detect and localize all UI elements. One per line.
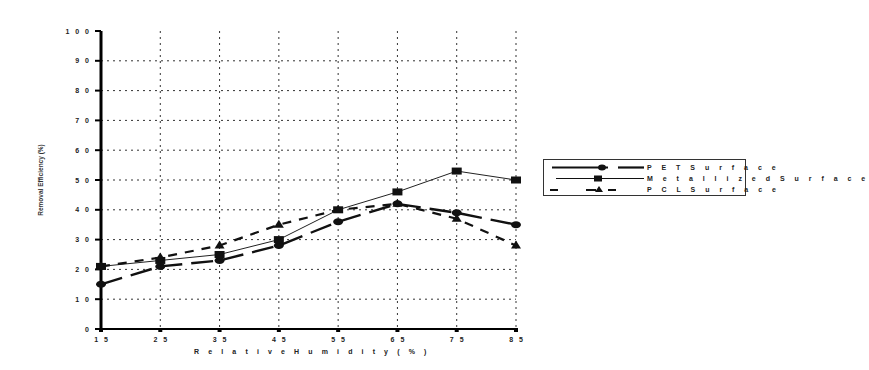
square-marker-icon — [274, 236, 284, 243]
square-marker-icon — [511, 177, 521, 184]
x-tick-label: 5 5 — [331, 336, 347, 343]
triangle-marker-icon — [274, 220, 284, 228]
x-tick-label: 7 5 — [450, 336, 466, 343]
grid-lines — [101, 31, 516, 329]
y-tick-label: 2 0 — [75, 266, 91, 273]
legend-swatch-pcl-triangle-icon — [546, 184, 646, 195]
legend-swatch-pet-circle-icon — [546, 162, 646, 173]
circle-marker-icon — [511, 221, 521, 228]
axes — [95, 31, 518, 332]
x-tick-label: 1 5 — [94, 336, 110, 343]
series-pet-surface — [96, 200, 521, 287]
x-tick — [99, 329, 103, 332]
x-tick — [158, 329, 162, 332]
triangle-marker-icon — [155, 252, 165, 260]
x-tick-label: 2 5 — [153, 336, 169, 343]
x-tick-label: 3 5 — [213, 336, 229, 343]
legend-label: P E T S u r f a c e — [647, 162, 780, 173]
x-tick-label: 6 5 — [391, 336, 407, 343]
circle-marker-icon — [274, 242, 284, 249]
data-series — [96, 168, 521, 288]
square-marker-icon — [392, 188, 402, 195]
y-axis-title: Removal Efficiency (%) — [37, 144, 45, 216]
circle-marker-icon — [333, 218, 343, 225]
y-tick-label: 5 0 — [75, 177, 91, 184]
x-tick — [218, 329, 222, 332]
square-marker-icon — [452, 168, 462, 175]
x-tick-label: 4 5 — [272, 336, 288, 343]
x-tick — [395, 329, 399, 332]
circle-marker-icon — [96, 281, 106, 288]
legend-item-pcl: P C L S u r f a c e — [544, 184, 745, 195]
y-tick-label: 7 0 — [75, 117, 91, 124]
y-tick-label: 6 0 — [75, 147, 91, 154]
legend-item-metallized: M e t a l l i z e d S u r f a c e — [544, 173, 745, 184]
x-tick — [455, 329, 459, 332]
tick-labels: 01 02 03 04 05 06 07 08 09 01 0 01 52 53… — [65, 28, 524, 344]
square-marker-icon — [215, 251, 225, 258]
circle-marker-icon — [215, 257, 225, 264]
circle-marker-icon — [155, 263, 165, 270]
legend-label: M e t a l l i z e d S u r f a c e — [647, 173, 869, 184]
x-axis-title: R e l a t i v e H u m i d i t y ( % ) — [194, 348, 430, 356]
x-tick — [336, 329, 340, 332]
legend: P E T S u r f a c e M e t a l l i z e d … — [543, 159, 746, 196]
y-tick-label: 0 — [85, 326, 91, 333]
legend-item-pet: P E T S u r f a c e — [544, 162, 745, 173]
y-tick-label: 8 0 — [75, 87, 91, 94]
x-tick-label: 8 5 — [509, 336, 525, 343]
y-tick-label: 1 0 0 — [65, 28, 91, 35]
y-tick-label: 1 0 — [75, 296, 91, 303]
y-tick-label: 4 0 — [75, 206, 91, 213]
legend-label: P C L S u r f a c e — [647, 184, 780, 195]
x-tick — [514, 329, 518, 332]
y-tick-label: 9 0 — [75, 57, 91, 64]
x-tick — [277, 329, 281, 332]
y-tick-label: 3 0 — [75, 236, 91, 243]
legend-swatch-metallized-square-icon — [546, 173, 646, 184]
